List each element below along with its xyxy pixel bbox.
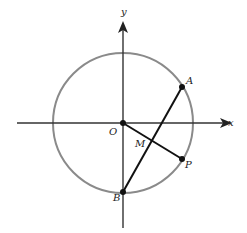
diagram-canvas: y x A O M P B <box>0 0 247 233</box>
point-o <box>120 120 126 126</box>
label-p: P <box>184 159 192 170</box>
label-a: A <box>185 75 193 86</box>
point-b <box>120 189 126 195</box>
point-a <box>179 84 185 90</box>
label-m: M <box>134 138 146 149</box>
label-o: O <box>109 126 117 137</box>
x-axis-label: x <box>228 117 234 128</box>
segment-op <box>123 123 182 159</box>
label-b: B <box>112 192 120 203</box>
y-axis-label: y <box>120 6 127 17</box>
segment-ab <box>123 87 182 192</box>
